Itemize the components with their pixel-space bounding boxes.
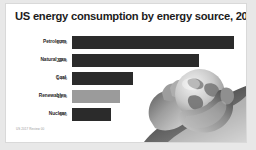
bar-renewables [72,90,120,103]
chart-row: Petroleum 37% [6,36,247,49]
bar-coal [72,72,133,85]
bar-value: 14% [53,75,67,81]
source-note: US 2017 Review 00 [16,127,44,131]
chart-row: Coal 14% [6,72,247,85]
bar-chart: Petroleum 37% Natural gas 29% Coal 14% R… [6,32,247,120]
bar-value: 9% [53,111,67,117]
bar-petroleum [72,36,234,49]
slide-card: US energy consumption by energy source, … [5,3,247,143]
bar-value: 29% [53,57,67,63]
bar-value: 37% [53,39,67,45]
chart-row: Natural gas 29% [6,54,247,67]
bar-natural-gas [72,54,199,67]
chart-row: Nuclear 9% [6,108,247,121]
page-title: US energy consumption by energy source, … [15,10,243,23]
bar-value: 11% [53,93,67,99]
chart-row: Renewables 11% [6,90,247,103]
bar-nuclear [72,108,111,121]
